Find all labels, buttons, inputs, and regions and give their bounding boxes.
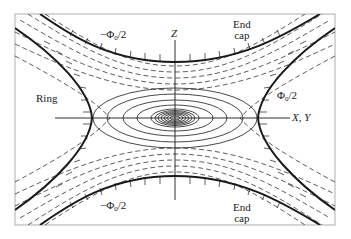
ion-trap-diagram: Z X, Y Ring End cap End cap −Φ0/2 Φ0/2 −… <box>0 0 351 239</box>
endcap-bottom-label-line2: cap <box>233 213 251 224</box>
potential-top-label: −Φ0/2 <box>100 29 126 44</box>
potential-bottom-label: −Φ0/2 <box>100 200 126 215</box>
z-axis-label: Z <box>171 28 177 39</box>
endcap-top-label-line2: cap <box>233 30 251 41</box>
endcap-top-label: End cap <box>233 19 251 41</box>
xy-axis-label: X, Y <box>292 112 310 123</box>
endcap-bottom-label: End cap <box>233 202 251 224</box>
endcap-top-electrode <box>40 14 320 62</box>
endcap-bottom-electrode <box>40 176 320 225</box>
ring-electrode-left <box>15 28 92 210</box>
ring-label: Ring <box>36 93 57 104</box>
potential-right-label: Φ0/2 <box>277 90 297 105</box>
